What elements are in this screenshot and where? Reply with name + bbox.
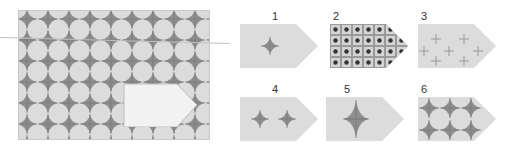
option-label-5: 5 <box>337 83 357 95</box>
option-4[interactable] <box>240 97 320 141</box>
missing-piece-blank <box>123 83 197 127</box>
option-2[interactable] <box>330 24 410 68</box>
option-label-4: 4 <box>265 83 285 95</box>
option-5[interactable] <box>326 97 406 141</box>
option-label-6: 6 <box>414 83 434 95</box>
option-6[interactable] <box>418 97 498 141</box>
option-label-3: 3 <box>414 10 434 22</box>
option-label-2: 2 <box>326 10 346 22</box>
option-3[interactable] <box>418 24 498 68</box>
option-label-1: 1 <box>265 10 285 22</box>
pattern-panel <box>18 10 210 140</box>
option-1[interactable] <box>240 24 320 68</box>
